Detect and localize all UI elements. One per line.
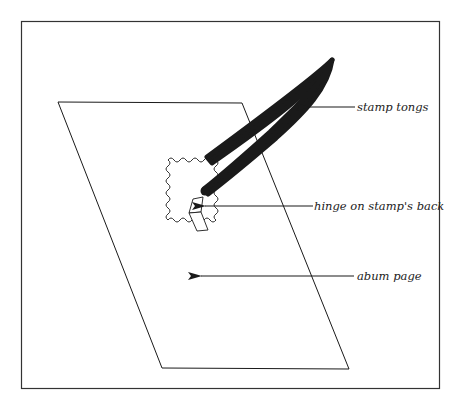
- album-page-shape: [58, 102, 349, 369]
- stamp-hinge-diagram: stamp tongs hinge on stamp's back abum p…: [0, 0, 461, 406]
- label-album-page: abum page: [357, 269, 422, 283]
- label-hinge: hinge on stamp's back: [314, 199, 444, 213]
- callout-tongs: stamp tongs: [309, 100, 429, 114]
- callout-page: abum page: [201, 269, 422, 283]
- callout-hinge: hinge on stamp's back: [205, 199, 444, 213]
- label-stamp-tongs: stamp tongs: [357, 100, 429, 114]
- stamp-tongs-shape: [201, 60, 333, 196]
